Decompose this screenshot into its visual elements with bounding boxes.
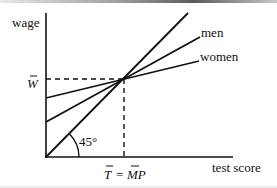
45-degree-line bbox=[46, 13, 188, 157]
mp-bar-label: MP bbox=[126, 167, 146, 182]
angle-arc bbox=[69, 134, 79, 157]
angle-label: 45° bbox=[79, 134, 97, 149]
equals-sign: = bbox=[116, 167, 123, 182]
w-bar-label: W bbox=[27, 76, 39, 91]
women-label: women bbox=[200, 49, 239, 64]
men-label: men bbox=[201, 25, 224, 40]
bottom-border bbox=[0, 186, 277, 188]
x-axis-label: test score bbox=[212, 160, 261, 175]
t-bar-label: T bbox=[104, 167, 112, 182]
wage-test-score-diagram: wage test score men women 45° W T = MP bbox=[0, 0, 277, 188]
y-axis-label: wage bbox=[12, 15, 40, 30]
